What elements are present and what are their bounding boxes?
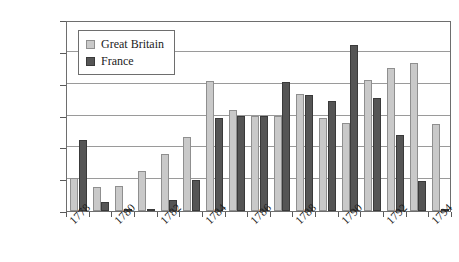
legend-swatch-great-britain: [86, 40, 95, 49]
bar-great-britain-1790: [342, 123, 350, 211]
x-tick-mark: [134, 212, 135, 217]
x-tick-mark: [179, 212, 180, 217]
legend-item-great-britain: Great Britain: [86, 36, 174, 53]
x-tick-mark: [406, 212, 407, 217]
bar-great-britain-1783: [183, 137, 191, 211]
legend: Great Britain France: [78, 30, 175, 75]
bar-great-britain-1784: [206, 81, 214, 211]
bar-great-britain-1785: [229, 110, 237, 211]
bar-france-1784: [215, 118, 223, 211]
bar-great-britain-1786: [251, 116, 259, 211]
bar-great-britain-1789: [319, 118, 327, 211]
x-tick-mark: [338, 212, 339, 217]
bar-great-britain-1778: [70, 178, 78, 211]
bar-great-britain-1781: [138, 171, 146, 211]
bar-france-1778: [79, 140, 87, 211]
x-tick-mark: [315, 212, 316, 217]
x-tick-mark: [157, 212, 158, 217]
bar-france-1791: [373, 98, 381, 211]
x-tick-mark: [225, 212, 226, 217]
x-tick-mark: [360, 212, 361, 217]
bar-great-britain-1788: [296, 94, 304, 211]
bar-france-1779: [101, 202, 109, 211]
bar-great-britain-1779: [93, 187, 101, 211]
bar-great-britain-1787: [274, 116, 282, 212]
bar-france-1786: [260, 116, 268, 211]
bar-france-1781: [147, 209, 155, 211]
x-tick-mark: [270, 212, 271, 217]
bar-france-1785: [237, 116, 245, 211]
bar-great-britain-1792: [387, 68, 395, 211]
bar-great-britain-1791: [364, 80, 372, 211]
x-tick-mark: [89, 212, 90, 217]
x-tick-mark: [202, 212, 203, 217]
legend-label-great-britain: Great Britain: [101, 38, 164, 51]
legend-label-france: France: [101, 55, 134, 68]
bar-great-britain-1794: [432, 124, 440, 211]
bar-france-1783: [192, 180, 200, 212]
bar-france-1787: [282, 82, 290, 211]
bar-france-1793: [418, 181, 426, 211]
bar-france-1792: [396, 135, 404, 211]
legend-swatch-france: [86, 57, 95, 66]
bar-great-britain-1793: [410, 63, 418, 211]
x-tick-mark: [451, 212, 452, 217]
bar-great-britain-1782: [161, 154, 169, 211]
legend-item-france: France: [86, 53, 174, 70]
bar-france-1790: [350, 45, 358, 211]
bar-france-1789: [328, 101, 336, 211]
bar-france-1788: [305, 95, 313, 211]
bar-chart: 010,00020,00030,00040,00050,00060,000 17…: [0, 0, 459, 262]
